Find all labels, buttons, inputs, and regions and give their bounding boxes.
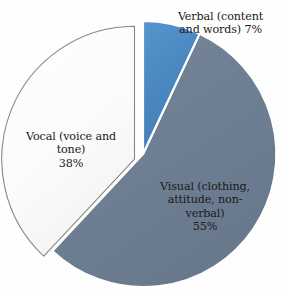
bottom-margin	[0, 296, 281, 307]
pie-label-visual: Visual (clothing, attitude, non- verbal)…	[148, 180, 262, 234]
pie-label-vocal: Vocal (voice and tone) 38%	[12, 130, 130, 170]
pie-chart-figure: Verbal (content and words) 7% Vocal (voi…	[0, 0, 281, 307]
pie-label-verbal: Verbal (content and words) 7%	[160, 10, 281, 37]
